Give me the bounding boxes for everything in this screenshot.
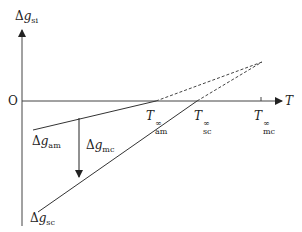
delta-g-sc-line-dashed <box>197 62 262 101</box>
supsub: ∞am <box>155 120 167 135</box>
delta-g-mc-label: Δgmc <box>86 139 114 154</box>
origin-text: O <box>8 94 18 108</box>
delta-g-am-line-solid <box>33 101 156 130</box>
y-axis-label: Δgsi <box>15 10 38 25</box>
subscript: sc <box>203 128 212 136</box>
supsub: ∞sc <box>203 120 212 135</box>
subscript: si <box>31 16 38 25</box>
var-t: T <box>194 109 202 123</box>
origin-label: O <box>8 95 18 107</box>
delta-g-sc-label: Δgsc <box>30 212 55 227</box>
delta-symbol: Δ <box>15 9 24 23</box>
free-energy-diagram: Δgsi O T T∞am T∞sc T∞mc Δgam Δgmc Δgsc <box>0 0 302 232</box>
delta-symbol: Δ <box>32 134 41 148</box>
x-axis-text: T <box>285 94 293 108</box>
t-sc-label: T∞sc <box>194 110 212 135</box>
subscript: mc <box>263 128 275 136</box>
subscript: mc <box>102 145 114 154</box>
t-mc-label: T∞mc <box>254 110 275 135</box>
t-am-label: T∞am <box>146 110 167 135</box>
subscript: am <box>155 128 167 136</box>
delta-g-sc-line-solid <box>38 101 197 212</box>
delta-symbol: Δ <box>30 211 39 225</box>
delta-symbol: Δ <box>86 138 95 152</box>
var-t: T <box>254 109 262 123</box>
subscript: sc <box>46 218 55 227</box>
supsub: ∞mc <box>263 120 275 135</box>
delta-g-am-label: Δgam <box>32 135 61 150</box>
x-axis-label: T <box>285 95 293 107</box>
subscript: am <box>48 141 60 150</box>
delta-g-am-line-dashed <box>156 62 262 101</box>
var-t: T <box>146 109 154 123</box>
